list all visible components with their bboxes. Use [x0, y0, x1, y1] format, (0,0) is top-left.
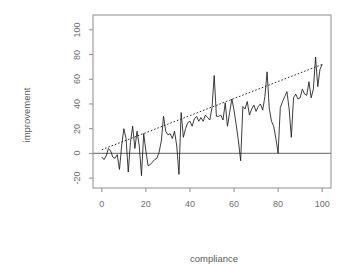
- y-tick-label: 40: [73, 99, 82, 109]
- y-tick-label: 0: [73, 151, 82, 156]
- x-axis-title: compliance: [190, 254, 238, 264]
- chart-canvas: [0, 0, 350, 276]
- x-tick-label: 100: [315, 200, 330, 209]
- x-tick-label: 40: [185, 200, 195, 209]
- y-axis-ticks: [89, 30, 93, 178]
- x-tick-label: 80: [273, 200, 283, 209]
- y-tick-label: 80: [73, 50, 82, 60]
- x-axis-ticks: [102, 188, 322, 192]
- x-tick-label: 0: [99, 200, 104, 209]
- y-tick-label: 100: [73, 22, 82, 37]
- y-tick-label: 20: [73, 124, 82, 134]
- y-tick-label: 60: [73, 74, 82, 84]
- data-series-line: [102, 57, 322, 176]
- x-tick-label: 60: [229, 200, 239, 209]
- y-tick-label: -20: [73, 172, 82, 185]
- plot-figure: 020406080100 -20020406080100 compliance …: [0, 0, 350, 276]
- y-axis-title: improvement: [22, 88, 32, 143]
- x-tick-label: 20: [141, 200, 151, 209]
